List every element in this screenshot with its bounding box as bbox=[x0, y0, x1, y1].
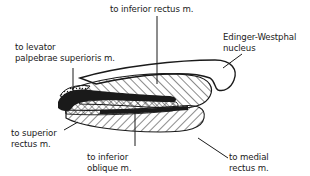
label-levator-line1: to levator bbox=[15, 42, 56, 52]
oculomotor-nucleus-diagram bbox=[0, 0, 310, 176]
label-superior-rectus-line1: to superior bbox=[11, 128, 57, 138]
label-edinger-line2: nucleus bbox=[223, 43, 256, 53]
label-levator-line2: palpebrae superioris m. bbox=[15, 53, 115, 63]
label-superior-rectus-line2: rectus m. bbox=[11, 139, 51, 149]
label-medial-rectus-line2: rectus m. bbox=[229, 163, 269, 173]
leader-medial-rectus bbox=[198, 138, 228, 158]
label-medial-rectus-line1: to medial bbox=[229, 152, 269, 162]
label-inferior-rectus: to inferior rectus m. bbox=[110, 4, 193, 14]
label-inferior-oblique-line2: oblique m. bbox=[87, 163, 132, 173]
leader-superior-rectus bbox=[64, 122, 78, 130]
label-edinger-line1: Edinger-Westphal bbox=[223, 32, 296, 42]
label-inferior-oblique-line1: to inferior bbox=[87, 152, 128, 162]
